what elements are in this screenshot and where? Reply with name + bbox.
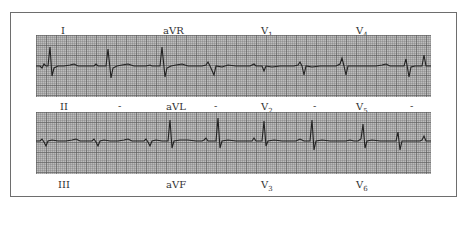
separator-mark: - bbox=[214, 101, 217, 111]
separator-mark: - bbox=[118, 101, 121, 111]
ecg-trace-row-1 bbox=[36, 35, 431, 97]
lead-label-V3: V3 bbox=[261, 180, 273, 193]
separator-mark: - bbox=[410, 101, 413, 111]
ecg-trace-row-2 bbox=[36, 112, 431, 174]
ecg-strip-1 bbox=[36, 35, 431, 97]
lead-label-aVL: aVL bbox=[166, 102, 186, 112]
lead-label-V6: V6 bbox=[356, 180, 368, 193]
lead-label-II: II bbox=[60, 102, 68, 112]
lead-label-aVF: aVF bbox=[166, 180, 186, 190]
separator-mark: - bbox=[313, 101, 316, 111]
lead-label-III: III bbox=[58, 180, 70, 190]
ecg-strip-2 bbox=[36, 112, 431, 174]
